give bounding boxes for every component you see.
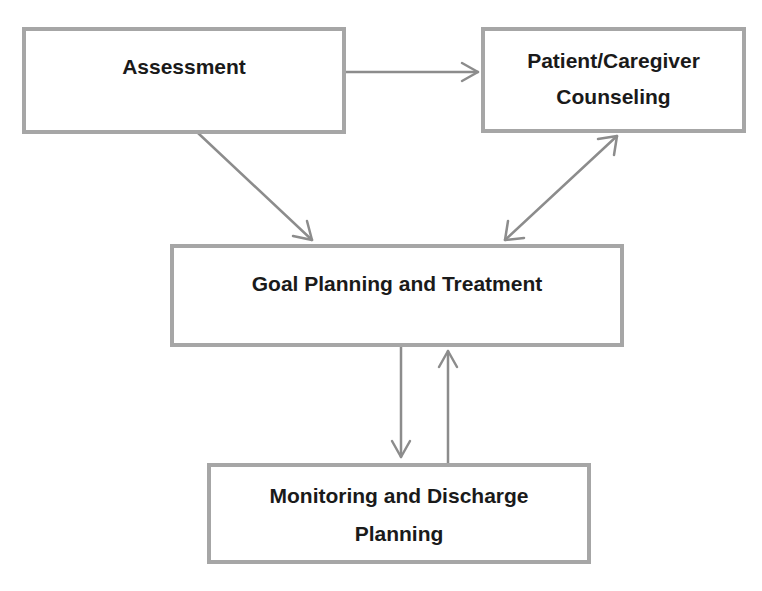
arrow-goal-to-monitoring — [392, 346, 410, 457]
node-patient-caregiver-counseling: Patient/Caregiver Counseling — [481, 27, 746, 133]
node-monitoring-discharge-planning: Monitoring and Discharge Planning — [207, 463, 591, 564]
node-assessment: Assessment — [22, 27, 346, 134]
diagram-canvas: Assessment Patient/Caregiver Counseling … — [0, 0, 762, 591]
node-goal-planning-treatment: Goal Planning and Treatment — [170, 244, 624, 347]
node-monitoring-label-line2: Planning — [211, 519, 587, 549]
arrow-monitoring-to-goal — [439, 351, 457, 463]
node-assessment-label: Assessment — [26, 52, 342, 82]
node-counseling-label-line1: Patient/Caregiver — [485, 46, 742, 76]
node-goal-label: Goal Planning and Treatment — [174, 269, 620, 299]
node-counseling-label-line2: Counseling — [485, 82, 742, 112]
node-monitoring-label-line1: Monitoring and Discharge — [211, 481, 587, 511]
arrow-assessment-to-counseling — [345, 63, 478, 81]
arrow-assessment-to-goal — [198, 133, 312, 240]
arrow-counseling-goal-bidirectional — [505, 136, 617, 240]
